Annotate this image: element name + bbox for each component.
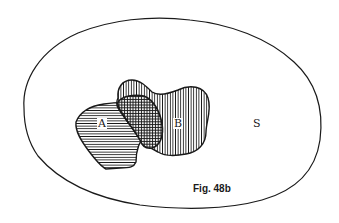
set-b-label: B <box>173 118 183 129</box>
venn-diagram <box>0 0 339 223</box>
set-a-label: A <box>97 118 107 129</box>
figure-caption: Fig. 48b <box>193 183 231 194</box>
universe-label: S <box>253 118 261 129</box>
